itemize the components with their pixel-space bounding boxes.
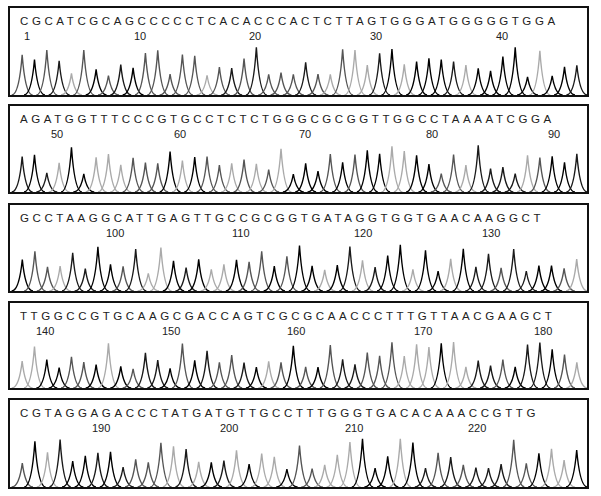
base-sequence: GCCTAAGGCATTGAGTTGCCGCGGTGATAGGTGGTGAACA… xyxy=(20,212,544,224)
chromatogram-panel: CGCATCGCAGCCCCCTCACACCCACTCTTAGTGGGATGGG… xyxy=(8,6,589,97)
position-label: 160 xyxy=(287,325,305,337)
position-label: 30 xyxy=(370,30,382,42)
position-label: 10 xyxy=(134,30,146,42)
base-sequence: TTGGCCGTGCAAGCGACCAGTCGCGCAACCCTTTGTTAAC… xyxy=(20,310,555,322)
position-label: 210 xyxy=(345,422,363,434)
position-label: 90 xyxy=(548,128,560,140)
chromatogram-panel: TTGGCCGTGCAAGCGACCAGTCGCGCAACCCTTTGTTAAC… xyxy=(8,301,589,390)
position-label: 20 xyxy=(249,30,261,42)
position-label: 110 xyxy=(232,227,250,239)
position-label: 140 xyxy=(36,325,54,337)
trace-plot xyxy=(10,142,587,192)
position-label: 220 xyxy=(468,422,486,434)
chromatogram-panel: CGTAGGAGACCCTATGATGTTGCCTTTGGGTGACACAAAC… xyxy=(8,398,589,489)
position-label: 50 xyxy=(51,128,63,140)
position-label: 80 xyxy=(426,128,438,140)
base-sequence: AGATGGTTTCCCGTGCCTCTCTGGGCGCGGTTGGCCTAAA… xyxy=(20,113,555,125)
position-label: 60 xyxy=(174,128,186,140)
position-label: 100 xyxy=(106,227,124,239)
trace-plot xyxy=(10,241,587,291)
position-label: 200 xyxy=(220,422,238,434)
position-label: 70 xyxy=(299,128,311,140)
position-label: 150 xyxy=(162,325,180,337)
position-label: 130 xyxy=(482,227,500,239)
base-sequence: CGTAGGAGACCCTATGATGTTGCCTTTGGGTGACACAAAC… xyxy=(20,407,539,419)
position-label: 120 xyxy=(354,227,372,239)
position-label: 170 xyxy=(414,325,432,337)
trace-plot xyxy=(10,44,587,95)
trace-plot xyxy=(10,339,587,388)
position-label: 1 xyxy=(24,30,30,42)
chromatogram-panel: GCCTAAGGCATTGAGTTGCCGCGGTGATAGGTGGTGAACA… xyxy=(8,203,589,293)
position-label: 40 xyxy=(496,30,508,42)
base-sequence: CGCATCGCAGCCCCCTCACACCCACTCTTAGTGGGATGGG… xyxy=(20,15,559,27)
position-label: 190 xyxy=(92,422,110,434)
chromatogram-panel: AGATGGTTTCCCGTGCCTCTCTGGGCGCGGTTGGCCTAAA… xyxy=(8,104,589,194)
position-label: 180 xyxy=(534,325,552,337)
trace-plot xyxy=(10,436,587,487)
